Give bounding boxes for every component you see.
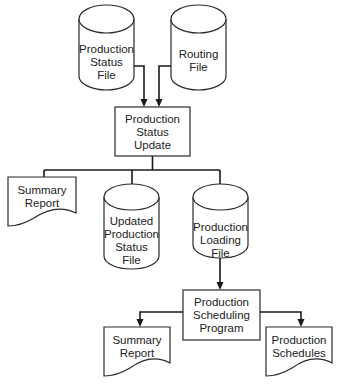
arrow-routing-file-to-update	[156, 66, 172, 107]
label-line: Production	[191, 221, 250, 234]
label-production-schedules: Production Schedules	[266, 334, 332, 360]
label-line: Status	[102, 241, 161, 254]
label-line: Routing	[171, 48, 226, 61]
label-line: File	[102, 254, 161, 267]
arrow-scheduling-to-production-schedules	[260, 312, 305, 327]
label-line: Update	[115, 139, 190, 152]
label-line: Report	[104, 347, 170, 360]
label-line: Production	[266, 334, 332, 347]
label-line: Production	[183, 296, 260, 309]
label-line: Program	[183, 322, 260, 335]
arrow-loading-file-to-scheduling	[217, 258, 224, 290]
label-line: Scheduling	[183, 309, 260, 322]
label-routing-file: Routing File	[171, 48, 226, 74]
label-line: Schedules	[266, 347, 332, 360]
label-line: File	[171, 61, 226, 74]
label-line: Report	[8, 197, 76, 210]
label-line: File	[79, 69, 134, 82]
arrow-scheduling-to-summary-report	[137, 312, 184, 327]
label-updated-production-status-file: Updated Production Status File	[102, 215, 161, 267]
label-line: Production	[79, 43, 134, 56]
label-production-loading-file: Production Loading File	[191, 221, 250, 260]
label-line: File	[191, 247, 250, 260]
label-line: Loading	[191, 234, 250, 247]
label-line: Status	[79, 56, 134, 69]
label-production-status-file: Production Status File	[79, 43, 134, 82]
label-production-status-update: Production Status Update	[115, 113, 190, 152]
label-line: Summary	[8, 184, 76, 197]
label-line: Updated	[102, 215, 161, 228]
arrow-status-file-to-update	[134, 66, 148, 107]
label-line: Production	[115, 113, 190, 126]
label-line: Production	[102, 228, 161, 241]
label-summary-report-2: Summary Report	[104, 334, 170, 360]
label-summary-report-1: Summary Report	[8, 184, 76, 210]
label-line: Status	[115, 126, 190, 139]
label-line: Summary	[104, 334, 170, 347]
label-production-scheduling-program: Production Scheduling Program	[183, 296, 260, 335]
